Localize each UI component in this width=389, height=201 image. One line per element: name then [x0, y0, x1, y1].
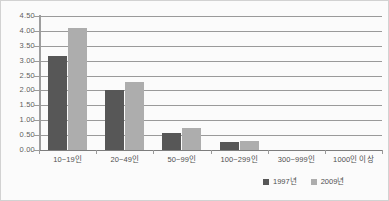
plot-area: [39, 16, 382, 150]
y-axis-tick: [34, 76, 39, 77]
bar-group: [39, 16, 96, 150]
x-axis-category-label: 20~49인: [96, 156, 153, 164]
bar-group: [325, 16, 382, 150]
x-axis-tick: [325, 150, 326, 154]
x-axis-tick: [96, 150, 97, 154]
y-axis-labels: 4.504.003.503.002.502.001.501.000.500.00: [1, 16, 35, 150]
x-axis-tick: [268, 150, 269, 154]
y-axis-tick: [34, 16, 39, 17]
legend-entry-1997[interactable]: 1997년: [263, 178, 297, 186]
legend-swatch-icon: [311, 179, 317, 185]
y-axis-tick: [34, 31, 39, 32]
y-axis-tick: [34, 105, 39, 106]
bar-series-2009: [182, 128, 201, 150]
bar-series-1997: [162, 133, 181, 150]
y-axis-tick-label: 3.00: [5, 57, 35, 65]
x-axis-tick: [39, 150, 40, 154]
legend-entry-2009[interactable]: 2009년: [311, 178, 345, 186]
bar-group: [96, 16, 153, 150]
legend-swatch-icon: [263, 179, 269, 185]
x-axis-category-label: 10~19인: [39, 156, 96, 164]
bar-chart-figure: 4.504.003.503.002.502.001.501.000.500.00…: [0, 0, 389, 201]
x-axis-category-label: 100~299인: [211, 156, 268, 164]
bar-group: [211, 16, 268, 150]
y-axis-tick-label: 0.00: [5, 146, 35, 154]
bar-series-1997: [48, 56, 67, 150]
legend-label: 2009년: [321, 178, 345, 186]
x-axis-category-label: 1000인 이상: [325, 156, 382, 164]
x-axis-tick: [153, 150, 154, 154]
bar-series-2009: [68, 28, 87, 150]
chart-legend: 1997년2009년: [263, 178, 344, 186]
y-axis-tick-label: 2.50: [5, 72, 35, 80]
bar-series-1997: [220, 142, 239, 150]
y-axis-tick: [34, 61, 39, 62]
y-axis-tick-label: 4.50: [5, 12, 35, 20]
x-axis-category-label: 300~999인: [268, 156, 325, 164]
x-axis-tick: [211, 150, 212, 154]
y-axis-tick: [34, 120, 39, 121]
y-axis-tick-label: 1.50: [5, 101, 35, 109]
bar-group: [268, 16, 325, 150]
x-axis-category-label: 50~99인: [153, 156, 210, 164]
bar-group: [153, 16, 210, 150]
y-axis-tick-label: 4.00: [5, 27, 35, 35]
bar-series-2009: [240, 141, 259, 150]
y-axis-tick-label: 3.50: [5, 42, 35, 50]
y-axis-tick: [34, 90, 39, 91]
y-axis-tick-label: 1.00: [5, 116, 35, 124]
y-axis-tick-label: 0.50: [5, 131, 35, 139]
x-axis-tick: [382, 150, 383, 154]
legend-label: 1997년: [273, 178, 297, 186]
y-axis-tick: [34, 46, 39, 47]
bar-series-1997: [105, 90, 124, 150]
bar-series-2009: [125, 82, 144, 150]
y-axis-tick: [34, 135, 39, 136]
y-axis-tick-label: 2.00: [5, 86, 35, 94]
